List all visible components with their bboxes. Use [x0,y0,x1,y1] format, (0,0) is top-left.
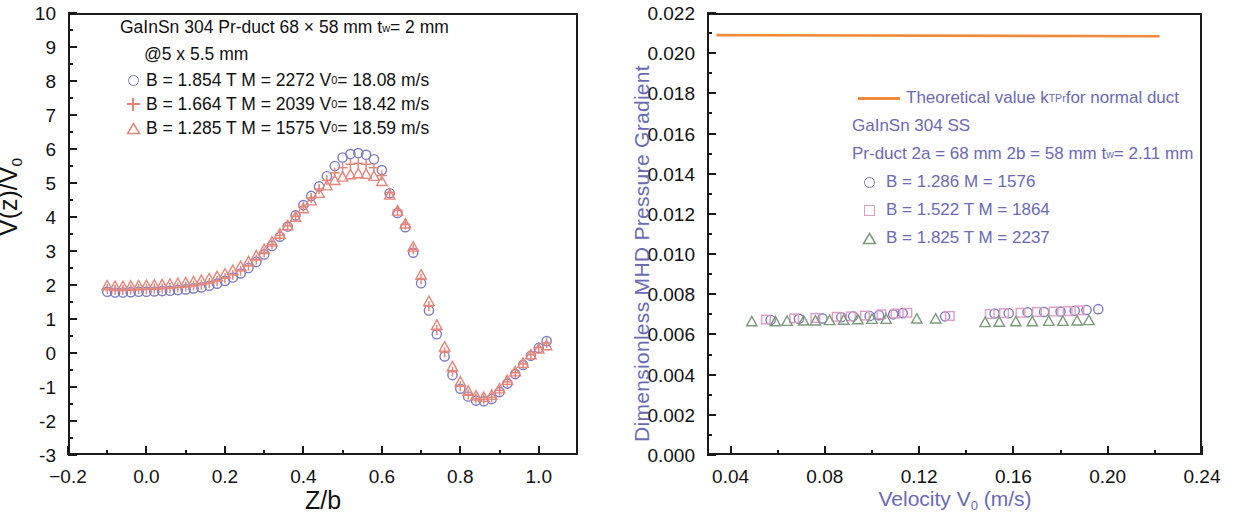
y-tick-label: 5 [22,174,56,193]
y-tick-major [68,318,77,320]
x-tick-minor [499,450,501,455]
y-tick-major [707,454,716,456]
x-tick-label: 0.0 [133,467,159,486]
x-tick-minor [965,450,967,455]
x-tick-minor [1154,450,1156,455]
x-tick-minor [420,450,422,455]
y-tick-label: 4 [22,208,56,227]
x-tick-minor [185,450,187,455]
y-tick-minor [68,301,73,303]
legend-geometry-line: Pr-duct 2a = 68 mm 2b = 58 mm tw = 2.11 … [852,140,1193,168]
x-tick-major [459,446,461,455]
y-title-sub: 0 [8,158,25,167]
y-tick-label: 0 [22,344,56,363]
x-tick-label: 0.2 [212,467,238,486]
square-marker-icon [852,205,886,216]
x-title-text: Velocity V [878,487,970,510]
y-title-text: V(z)/V [0,167,22,236]
x-tick-major [145,446,147,455]
y-tick-label: 9 [22,38,56,57]
triangle-marker-icon [120,122,146,135]
y-tick-label: -3 [22,446,56,465]
y-tick-minor [707,32,712,34]
y-tick-label: 8 [22,72,56,91]
legend-header-sub: w [382,22,390,34]
legend-entry-circle: B = 1.286 M = 1576 [852,168,1193,196]
legend-entry-text: B = 1.854 T M = 2272 V [146,70,331,91]
legend-header-line2: @5 x 5.5 mm [120,41,449,68]
legend-entry-plus: B = 1.664 T M = 2039 V0 = 18.42 m/s [120,92,449,116]
x-tick-major [918,446,920,455]
y-tick-label: 2 [22,276,56,295]
x-tick-minor [1060,450,1062,455]
legend-header-line1: GaInSn 304 Pr-duct 68 × 58 mm tw = 2 mm [120,14,449,41]
legend-entry-text: B = 1.286 M = 1576 [886,172,1035,192]
y-tick-minor [68,403,73,405]
x-tick-major [538,446,540,455]
y-tick-minor [68,335,73,337]
circle-marker-icon [852,177,886,188]
x-tick-minor [342,450,344,455]
legend-entry-tail: = 18.42 m/s [337,94,429,115]
y-tick-major [68,454,77,456]
legend-at-annotation: @5 x 5.5 mm [144,44,248,65]
x-tick-label: 0.24 [1184,467,1221,486]
left-x-axis-title: Z/b [305,486,341,515]
y-tick-major [68,80,77,82]
legend-entry-text: B = 1.825 T M = 2237 [886,228,1050,248]
theory-line-icon [852,97,906,100]
theory-label-sub: TPr [1049,92,1066,104]
legend-header-tail: = 2 mm [390,17,449,38]
x-tick-major [1201,446,1203,455]
y-tick-minor [707,394,712,396]
y-tick-minor [68,97,73,99]
y-tick-minor [68,131,73,133]
left-legend: GaInSn 304 Pr-duct 68 × 58 mm tw = 2 mm … [120,14,449,140]
y-tick-label: -2 [22,412,56,431]
y-tick-minor [68,165,73,167]
y-tick-minor [707,233,712,235]
legend-entry-text: B = 1.522 T M = 1864 [886,200,1050,220]
y-tick-label: 3 [22,242,56,261]
y-tick-minor [707,72,712,74]
x-title-tail: (m/s) [978,487,1032,510]
legend-entry-theory-line: Theoretical value kTPr for normal duct [852,84,1193,112]
x-tick-major [730,446,732,455]
x-tick-major [1107,446,1109,455]
right-x-axis-title: Velocity V0 (m/s) [878,487,1031,513]
y-tick-minor [707,153,712,155]
y-tick-minor [707,273,712,275]
x-tick-major [224,446,226,455]
triangle-marker-icon [852,232,886,245]
y-tick-major [68,182,77,184]
plus-marker-icon [120,98,146,111]
y-tick-major [707,213,716,215]
left-y-axis-title: V(z)/V0 [0,158,26,236]
y-tick-major [68,12,77,14]
x-tick-minor [871,450,873,455]
geometry-text: Pr-duct 2a = 68 mm 2b = 58 mm t [852,144,1106,164]
geometry-sub: w [1106,148,1114,160]
x-tick-label: −0.2 [49,467,87,486]
left-chart-panel: 109876543210-1-2-3−0.20.00.20.40.60.81.0… [0,0,622,519]
y-tick-minor [68,29,73,31]
x-tick-label: 0.6 [369,467,395,486]
x-tick-major [824,446,826,455]
y-tick-major [707,133,716,135]
y-tick-major [707,374,716,376]
x-tick-label: 0.12 [901,467,938,486]
y-tick-major [68,216,77,218]
y-tick-minor [68,267,73,269]
legend-entry-circle: B = 1.854 T M = 2272 V0 = 18.08 m/s [120,68,449,92]
legend-entry-text: B = 1.664 T M = 2039 V [146,94,331,115]
y-tick-minor [707,354,712,356]
legend-entry-tail: = 18.59 m/s [337,118,429,139]
x-tick-label: 0.08 [806,467,843,486]
x-tick-label: 0.04 [712,467,749,486]
y-tick-minor [707,193,712,195]
x-tick-major [381,446,383,455]
x-tick-minor [106,450,108,455]
right-legend: Theoretical value kTPr for normal duct G… [852,84,1193,252]
y-tick-major [707,414,716,416]
right-y-axis-title: Dimensionless MHD Pressure Gradient [630,65,654,442]
